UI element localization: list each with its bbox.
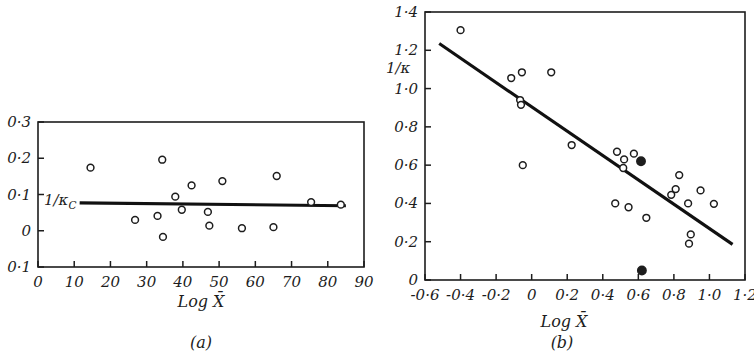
data-point <box>178 206 185 213</box>
y-tick-label: 0 <box>21 222 31 240</box>
data-point <box>518 101 525 108</box>
panel-a: 01020304050607080900·30·20·100·1 1/κC Lo… <box>0 0 380 361</box>
data-point <box>308 199 315 206</box>
data-point <box>87 164 94 171</box>
panel-a-plot: 01020304050607080900·30·20·100·1 1/κC Lo… <box>0 0 380 361</box>
x-tick-label: 0 <box>33 273 43 291</box>
data-point <box>630 150 637 157</box>
panel-b-axes <box>425 12 745 280</box>
data-point <box>132 216 139 223</box>
data-point <box>548 69 555 76</box>
panel-b-xaxis-label: Log X̄ <box>540 310 589 331</box>
y-tick-label: 0·4 <box>394 194 418 212</box>
plot-frame <box>38 122 364 267</box>
data-point <box>625 204 632 211</box>
data-point <box>337 201 344 208</box>
series-label-subscript: C <box>68 199 76 211</box>
data-point <box>159 156 166 163</box>
plot-frame <box>425 12 745 280</box>
panel-a-caption: (a) <box>190 333 212 352</box>
data-point <box>188 182 195 189</box>
figure-container: 01020304050607080900·30·20·100·1 1/κC Lo… <box>0 0 754 361</box>
x-tick-label: 0·8 <box>662 286 686 304</box>
panel-a-fit-line <box>80 203 346 206</box>
x-tick-label: 0 <box>527 286 537 304</box>
y-tick-label: 1·2 <box>394 41 418 59</box>
panel-a-xaxis-label: Log X̄ <box>177 290 226 311</box>
x-tick-label: 0·4 <box>591 286 615 304</box>
y-tick-label: 1·0 <box>394 80 418 98</box>
panel-a-data-points <box>87 156 344 240</box>
data-point <box>614 148 621 155</box>
data-point <box>612 200 619 207</box>
x-tick-label: 50 <box>210 273 230 291</box>
x-tick-label: 30 <box>137 273 157 291</box>
data-point <box>206 222 213 229</box>
data-point-filled <box>638 266 646 274</box>
data-point <box>270 224 277 231</box>
y-tick-label: 0·1 <box>7 258 31 276</box>
data-point <box>508 75 515 82</box>
x-tick-label: 0·2 <box>555 286 579 304</box>
panel-b-caption: (b) <box>551 333 574 352</box>
data-point <box>457 27 464 34</box>
panel-a-series-label: 1/κC <box>44 191 76 211</box>
data-point <box>686 240 693 247</box>
data-point <box>643 214 650 221</box>
panel-b-plot: -0·6-0·4-0·200·20·40·60·81·01·21·41·21·0… <box>374 0 754 361</box>
data-point <box>568 142 575 149</box>
x-tick-label: 70 <box>282 273 302 291</box>
data-point <box>697 187 704 194</box>
panel-b-yaxis-label: 1/κ <box>386 59 411 77</box>
y-tick-label: 0 <box>408 271 418 289</box>
y-tick-label: 0·2 <box>394 233 418 251</box>
y-tick-label: 0·1 <box>7 186 31 204</box>
data-point <box>204 209 211 216</box>
panel-a-axes <box>38 122 364 267</box>
data-point <box>672 186 679 193</box>
data-point <box>172 193 179 200</box>
data-point <box>219 178 226 185</box>
x-tick-label: 90 <box>354 273 374 291</box>
x-tick-label: 0·6 <box>626 286 650 304</box>
data-point <box>621 156 628 163</box>
data-point <box>154 212 161 219</box>
data-point-filled <box>637 157 645 165</box>
data-point <box>710 200 717 207</box>
y-tick-label: 0·6 <box>394 156 418 174</box>
x-tick-label: 80 <box>318 273 338 291</box>
fit-line <box>439 44 732 245</box>
panel-b: -0·6-0·4-0·200·20·40·60·81·01·21·41·21·0… <box>374 0 754 361</box>
x-tick-label: 1·2 <box>733 286 754 304</box>
fit-line <box>80 203 346 206</box>
data-point <box>687 231 694 238</box>
x-tick-label: 20 <box>100 273 121 291</box>
data-point <box>519 162 526 169</box>
x-tick-label: -0·2 <box>482 286 511 304</box>
data-point <box>620 165 627 172</box>
data-point <box>273 173 280 180</box>
data-point <box>518 69 525 76</box>
x-tick-label: 60 <box>246 273 266 291</box>
y-tick-label: 0·8 <box>394 118 418 136</box>
x-tick-label: 40 <box>172 273 193 291</box>
x-tick-label: 10 <box>65 273 85 291</box>
data-point <box>239 225 246 232</box>
x-tick-label: 1·0 <box>698 286 722 304</box>
x-tick-label: -0·4 <box>446 286 475 304</box>
series-label-base: 1/κ <box>44 191 69 209</box>
panel-b-fit-line <box>439 44 732 245</box>
data-point <box>685 200 692 207</box>
panel-b-data-points <box>457 27 717 275</box>
y-tick-label: 1·4 <box>394 3 418 21</box>
data-point <box>676 172 683 179</box>
y-tick-label: 0·2 <box>7 149 31 167</box>
data-point <box>160 234 167 241</box>
y-tick-label: 0·3 <box>7 113 31 131</box>
